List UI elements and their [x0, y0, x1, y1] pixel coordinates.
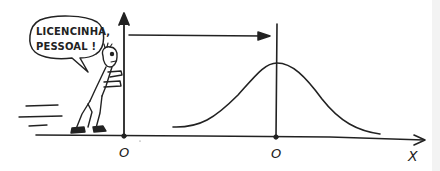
origin-dot	[122, 134, 126, 138]
shifted-origin-label: O	[271, 147, 281, 160]
cartoon-diagram: LICENCINHA, PESSOAL ! O O X	[0, 0, 440, 171]
speed-lines	[19, 105, 62, 126]
cartoon-character	[71, 43, 122, 133]
speech-bubble-text: LICENCINHA, PESSOAL !	[36, 24, 110, 54]
origin-label: O	[119, 146, 129, 159]
mean-line	[276, 24, 277, 137]
speech-line-2: PESSOAL !	[36, 39, 110, 54]
stray-dot	[139, 140, 140, 141]
speech-line-1: LICENCINHA,	[36, 24, 110, 39]
shift-arrow	[129, 32, 270, 40]
x-axis	[36, 135, 425, 145]
mean-dot	[274, 135, 278, 139]
y-axis	[119, 13, 129, 136]
x-axis-label: X	[408, 149, 418, 163]
